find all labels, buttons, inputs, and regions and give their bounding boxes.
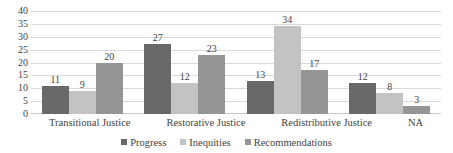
bar-chart: 4035302520151050 119202712231334171283 T… [0, 0, 453, 153]
bar-progress[interactable] [144, 44, 171, 114]
x-axis-category-label: Transitional Justice [49, 116, 131, 130]
legend-item[interactable]: Inequities [180, 137, 230, 148]
bar-value-label: 13 [255, 70, 265, 80]
bar-progress[interactable] [247, 81, 274, 114]
x-axis-category-label: Redistributive Justice [281, 116, 372, 130]
y-axis-tick-label: 5 [0, 96, 28, 106]
bar-value-label: 12 [180, 72, 190, 82]
y-axis-tick-label: 40 [0, 6, 28, 16]
bar-group: 271223 [144, 11, 225, 114]
legend-label: Inequities [189, 137, 230, 148]
bar-slot: 8 [376, 11, 403, 114]
bar-value-label: 3 [414, 95, 419, 105]
bar-value-label: 20 [104, 52, 114, 62]
bar-inequities[interactable] [69, 91, 96, 114]
bar-slot: 11 [42, 11, 69, 114]
legend-item[interactable]: Progress [121, 137, 166, 148]
bar-value-label: 17 [309, 59, 319, 69]
legend-swatch-icon [245, 139, 251, 145]
legend-swatch-icon [180, 139, 186, 145]
bar-inequities[interactable] [376, 93, 403, 114]
legend-label: Progress [130, 137, 166, 148]
bar-slot: 23 [198, 11, 225, 114]
x-axis: Transitional JusticeRestorative JusticeR… [31, 116, 441, 132]
bar-value-label: 23 [207, 44, 217, 54]
bar-slot: 3 [403, 11, 430, 114]
bar-inequities[interactable] [274, 26, 301, 114]
y-axis-tick-label: 30 [0, 32, 28, 42]
bar-slot: 20 [96, 11, 123, 114]
x-axis-category-label: Restorative Justice [166, 116, 245, 130]
x-axis-category-label: NA [408, 116, 423, 130]
bar-progress[interactable] [349, 83, 376, 114]
bar-slot: 34 [274, 11, 301, 114]
bar-value-label: 34 [282, 15, 292, 25]
bar-progress[interactable] [42, 86, 69, 114]
legend-swatch-icon [121, 139, 127, 145]
bar-slot: 12 [349, 11, 376, 114]
bar-group: 11920 [42, 11, 123, 114]
bar-slot: 27 [144, 11, 171, 114]
bar-group: 1283 [349, 11, 430, 114]
bar-groups: 119202712231334171283 [31, 11, 441, 114]
bar-slot: 12 [171, 11, 198, 114]
chart-legend: ProgressInequitiesRecommendations [0, 135, 453, 149]
bar-value-label: 11 [50, 75, 60, 85]
y-axis-tick-label: 20 [0, 58, 28, 68]
y-axis-tick-label: 0 [0, 109, 28, 119]
bar-recommendations[interactable] [403, 106, 430, 114]
y-axis-tick-label: 35 [0, 19, 28, 29]
y-axis-tick-label: 10 [0, 83, 28, 93]
plot-area: 119202712231334171283 [31, 11, 441, 114]
bar-slot: 13 [247, 11, 274, 114]
bar-slot: 17 [301, 11, 328, 114]
bar-value-label: 9 [80, 80, 85, 90]
y-axis-tick-label: 25 [0, 45, 28, 55]
legend-label: Recommendations [254, 137, 332, 148]
bar-recommendations[interactable] [198, 55, 225, 114]
bar-recommendations[interactable] [96, 63, 123, 115]
bar-inequities[interactable] [171, 83, 198, 114]
bar-slot: 9 [69, 11, 96, 114]
y-axis: 4035302520151050 [0, 0, 28, 125]
legend-item[interactable]: Recommendations [245, 137, 332, 148]
bar-value-label: 12 [358, 72, 368, 82]
bar-value-label: 27 [153, 33, 163, 43]
bar-recommendations[interactable] [301, 70, 328, 114]
y-axis-tick-label: 15 [0, 70, 28, 80]
bar-value-label: 8 [387, 82, 392, 92]
bar-group: 133417 [247, 11, 328, 114]
